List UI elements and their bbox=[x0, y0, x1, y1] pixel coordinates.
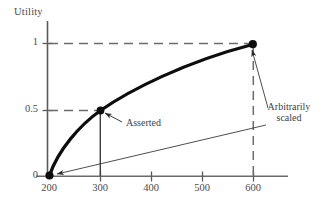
data-point-scaled bbox=[249, 40, 257, 48]
x-tick-label-600: 600 bbox=[237, 182, 269, 193]
x-tick-label-400: 400 bbox=[135, 182, 167, 193]
scaled-pointer-to-top-point bbox=[252, 50, 268, 108]
data-point-markers bbox=[45, 40, 257, 179]
x-tick-label-200: 200 bbox=[33, 182, 65, 193]
y-tick-label-0p5: 0.5 bbox=[14, 103, 38, 114]
scaled-pointer-lines bbox=[57, 50, 268, 174]
guide-lines-group bbox=[49, 44, 253, 177]
data-point-asserted bbox=[97, 107, 105, 115]
asserted-arrow-line bbox=[105, 113, 122, 122]
asserted-annotation-arrow bbox=[105, 113, 122, 122]
y-tick-label-1: 1 bbox=[24, 36, 38, 47]
annotation-arbitrarily-scaled-line1: Arbitrarily bbox=[261, 101, 317, 113]
scaled-pointer-to-origin bbox=[57, 125, 266, 174]
annotation-asserted-label: Asserted bbox=[126, 117, 161, 129]
x-tick-label-500: 500 bbox=[186, 182, 218, 193]
x-tick-label-300: 300 bbox=[84, 182, 116, 193]
annotation-arbitrarily-scaled-line2: scaled bbox=[261, 112, 317, 124]
y-tick-label-0: 0 bbox=[24, 169, 38, 180]
y-axis-title: Utility bbox=[14, 6, 43, 17]
utility-chart-figure: Utility 1 0.5 0 200 300 400 500 600 Asse… bbox=[0, 0, 321, 201]
data-point-origin bbox=[45, 171, 53, 179]
